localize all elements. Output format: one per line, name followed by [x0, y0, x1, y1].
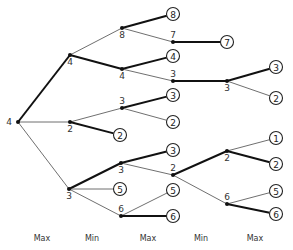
node-value-label: 2	[67, 124, 73, 134]
tree-edge	[70, 28, 122, 55]
tree-edge	[70, 55, 122, 69]
level-label-min: Min	[194, 234, 208, 243]
leaf-node: 3	[167, 144, 180, 157]
leaf-value: 7	[224, 38, 230, 48]
leaf-value: 2	[117, 131, 123, 141]
tree-edge	[227, 69, 270, 81]
leaf-value: 6	[170, 212, 176, 222]
tree-leaves: 8743232231255566	[114, 8, 283, 223]
node-value-label: 3	[118, 165, 124, 175]
minimax-game-tree: 442384336732326 8743232231255566 MaxMinM…	[0, 0, 293, 250]
node-value-label: 4	[67, 57, 73, 67]
node-value-label: 2	[224, 153, 230, 163]
level-label-min: Min	[85, 234, 99, 243]
leaf-value: 2	[273, 94, 279, 104]
level-label-max: Max	[247, 234, 264, 243]
tree-edge	[121, 193, 167, 216]
leaf-node: 1	[270, 132, 283, 145]
node-value-label: 2	[170, 163, 176, 173]
leaf-value: 5	[273, 187, 279, 197]
node-value-label: 4	[119, 71, 125, 81]
leaf-value: 8	[170, 10, 176, 20]
leaf-node: 5	[167, 184, 180, 197]
node-dot	[225, 202, 229, 206]
tree-edge	[122, 16, 167, 28]
leaf-value: 6	[273, 210, 279, 220]
tree-edge	[122, 108, 167, 120]
leaf-node: 2	[167, 116, 180, 129]
leaf-value: 2	[273, 160, 279, 170]
leaf-node: 3	[167, 89, 180, 102]
leaf-node: 2	[270, 92, 283, 105]
leaf-value: 2	[170, 118, 176, 128]
leaf-value: 1	[273, 134, 279, 144]
node-value-label: 8	[119, 30, 125, 40]
tree-edge	[18, 122, 69, 189]
tree-edge	[70, 122, 114, 133]
leaf-node: 4	[167, 50, 180, 63]
leaf-node: 3	[270, 61, 283, 74]
tree-edge	[227, 140, 270, 151]
node-value-label: 6	[118, 204, 124, 214]
leaf-node: 2	[270, 158, 283, 171]
tree-edge	[227, 193, 270, 204]
leaf-value: 5	[117, 185, 123, 195]
node-dot	[120, 106, 124, 110]
node-dot	[119, 214, 123, 218]
tree-edge	[121, 152, 167, 163]
leaf-node: 5	[114, 183, 127, 196]
tree-edge	[173, 175, 227, 204]
node-dot	[171, 79, 175, 83]
leaf-node: 2	[114, 129, 127, 142]
tree-edge	[18, 55, 70, 122]
leaf-value: 3	[170, 146, 176, 156]
node-value-label: 3	[66, 191, 72, 201]
tree-edge	[122, 69, 173, 81]
tree-edge	[122, 97, 167, 108]
node-value-label: 7	[170, 30, 176, 40]
tree-edge	[227, 81, 270, 96]
tree-edge	[121, 163, 173, 175]
tree-edge	[122, 28, 173, 42]
tree-edge	[227, 151, 270, 162]
level-label-max: Max	[140, 234, 157, 243]
leaf-value: 4	[170, 52, 176, 62]
node-value-label: 6	[224, 192, 230, 202]
node-dot	[171, 173, 175, 177]
node-value-label: 3	[170, 69, 176, 79]
node-value-label: 4	[6, 117, 12, 127]
node-dot	[171, 40, 175, 44]
leaf-value: 3	[170, 91, 176, 101]
leaf-node: 6	[167, 210, 180, 223]
leaf-value: 3	[273, 63, 279, 73]
tree-edge	[69, 163, 121, 189]
tree-node: 4	[6, 117, 20, 127]
leaf-value: 5	[170, 186, 176, 196]
tree-edge	[69, 189, 121, 216]
level-label-max: Max	[34, 234, 51, 243]
tree-edge	[173, 151, 227, 175]
node-value-label: 3	[224, 83, 230, 93]
node-value-label: 3	[119, 96, 125, 106]
leaf-node: 6	[270, 208, 283, 221]
node-dot	[16, 120, 20, 124]
tree-edge	[227, 204, 270, 213]
level-labels: MaxMinMaxMinMax	[34, 234, 264, 243]
leaf-node: 5	[270, 185, 283, 198]
leaf-node: 8	[167, 8, 180, 21]
leaf-node: 7	[221, 36, 234, 49]
tree-edge	[70, 108, 122, 122]
tree-edge	[122, 58, 167, 69]
